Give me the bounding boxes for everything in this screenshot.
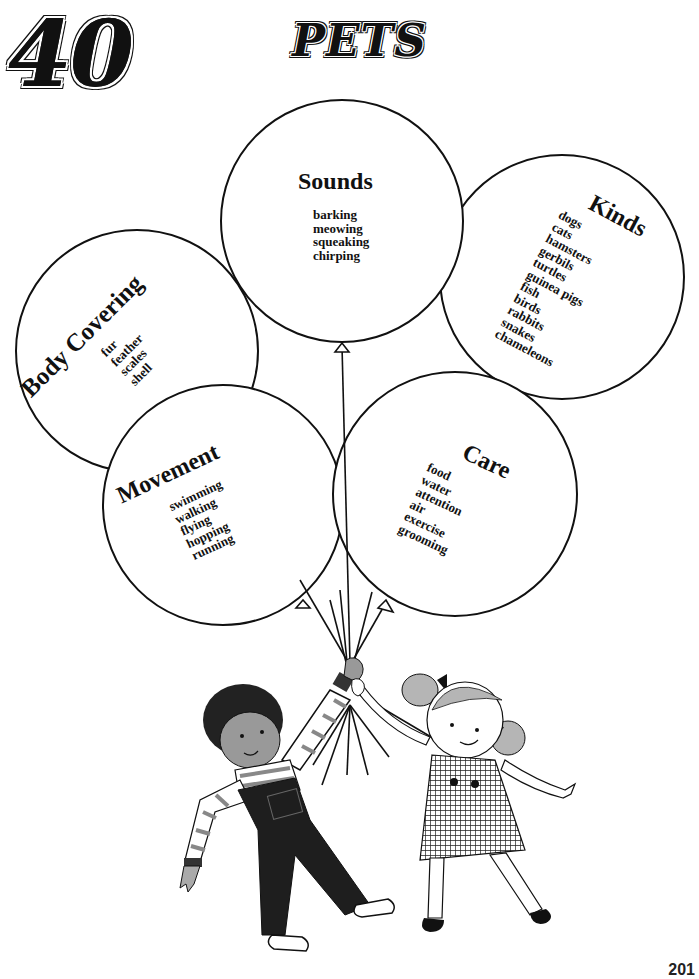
list-item: meowing: [313, 222, 400, 236]
page-number: 201: [668, 961, 695, 979]
list-item: barking: [313, 208, 400, 222]
girl-figure: [352, 674, 575, 932]
boy-figure: [180, 658, 394, 951]
balloon-heading: Sounds: [298, 168, 400, 194]
list-item: squeaking: [313, 235, 400, 249]
list-item: chirping: [313, 249, 400, 263]
balloon-sounds: Sounds barking meowing squeaking chirpin…: [290, 168, 400, 262]
